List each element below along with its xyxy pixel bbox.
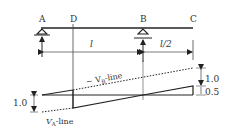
dimension-AB-label: l xyxy=(90,39,93,49)
svg-text:− VB-line: − VB-line xyxy=(85,71,123,87)
va-line xyxy=(42,108,73,112)
influence-line-left xyxy=(42,90,73,95)
label-D: D xyxy=(70,14,77,24)
label-B: B xyxy=(140,14,147,24)
va-line-label: VA-line xyxy=(46,117,74,127)
right-upper-value: 1.0 xyxy=(205,74,220,84)
right-lower-value: 0.5 xyxy=(205,87,220,97)
influence-line-right xyxy=(73,86,193,108)
neg-vb-line-label: − VB-line xyxy=(85,71,123,87)
influence-line-diagram: A D B C l l/2 − VB-line VA-line xyxy=(0,0,233,134)
label-A: A xyxy=(38,14,46,24)
pin-support-B-icon xyxy=(134,29,152,38)
pin-support-A-icon xyxy=(34,29,50,35)
dimension-BC-label: l/2 xyxy=(160,39,172,49)
left-ordinate-value: 1.0 xyxy=(13,98,28,108)
label-C: C xyxy=(190,14,197,24)
